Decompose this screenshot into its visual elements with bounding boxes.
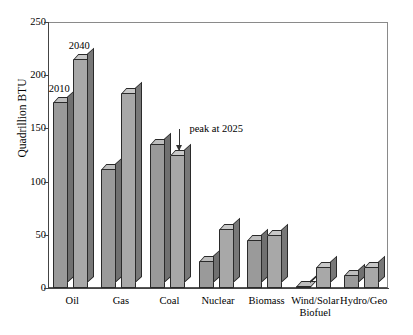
bar-face — [344, 275, 359, 288]
bar-face — [267, 235, 282, 288]
bar-side-face — [330, 255, 337, 283]
series-label-2040: 2040 — [69, 40, 90, 51]
bar-coal-2040 — [170, 155, 185, 288]
annotation-arrow — [179, 129, 180, 150]
bar-face — [316, 267, 331, 288]
bar-face — [199, 261, 214, 288]
bar-side-face — [378, 255, 385, 283]
series-label-2010: 2010 — [49, 83, 70, 94]
bar-face — [53, 102, 68, 288]
bar-side-face — [233, 218, 240, 283]
bar-face — [219, 229, 234, 288]
bar-side-face — [135, 82, 142, 283]
bar-oil-2010 — [53, 102, 68, 288]
bar-face — [247, 240, 262, 288]
bar-face — [364, 267, 379, 288]
bar-nuclear-2040 — [219, 229, 234, 288]
bar-side-face — [87, 48, 94, 283]
bar-face — [73, 59, 88, 288]
bar-side-face — [184, 144, 191, 283]
bar-wind-solar-2010 — [296, 286, 311, 288]
bar-top-face — [296, 281, 316, 287]
bar-biomass-2010 — [247, 240, 262, 288]
bar-gas-2010 — [101, 169, 116, 288]
bar-biomass-2040 — [267, 235, 282, 288]
bar-face — [150, 144, 165, 288]
bar-hydro-geo-2040 — [364, 267, 379, 288]
bar-face — [170, 155, 185, 288]
energy-consumption-bar-chart: Quadrillion BTU 050100150200250 OilGasCo… — [0, 0, 413, 335]
x-label-hydro-geo: Hydro/Geo — [319, 295, 409, 307]
bar-hydro-geo-2010 — [344, 275, 359, 288]
bar-coal-2010 — [150, 144, 165, 288]
bar-side-face — [281, 223, 288, 282]
bars-layer — [0, 0, 413, 335]
bar-oil-2040 — [73, 59, 88, 288]
bar-wind-solar-2040 — [316, 267, 331, 288]
bar-gas-2040 — [121, 93, 136, 288]
annotation-label: peak at 2025 — [189, 123, 243, 134]
bar-nuclear-2010 — [199, 261, 214, 288]
x-label-line1: Hydro/Geo — [319, 295, 409, 307]
x-label-line2: Biofuel — [270, 307, 360, 319]
